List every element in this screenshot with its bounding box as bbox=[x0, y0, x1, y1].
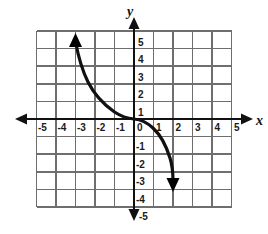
y-tick-label: -1 bbox=[136, 141, 145, 152]
cubic-curve bbox=[69, 33, 180, 192]
x-tick-label: -4 bbox=[58, 122, 67, 133]
x-tick-label: 5 bbox=[234, 122, 240, 133]
x-axis-right-arrow bbox=[241, 114, 253, 125]
y-tick-label: -5 bbox=[139, 211, 148, 222]
y-tick-label: -2 bbox=[136, 159, 145, 170]
x-tick-label-origin: 0 bbox=[137, 122, 143, 133]
x-tick-label: -1 bbox=[116, 122, 125, 133]
x-tick-label: -5 bbox=[38, 122, 47, 133]
y-tick-label: 3 bbox=[138, 72, 144, 83]
y-tick-label: 2 bbox=[138, 89, 144, 100]
x-tick-label: 2 bbox=[176, 122, 182, 133]
y-tick-label: 1 bbox=[138, 107, 144, 118]
y-tick-label: -4 bbox=[136, 194, 145, 205]
y-tick-label: 4 bbox=[138, 54, 144, 65]
x-axis-left-arrow bbox=[15, 114, 27, 125]
x-tick-label: 3 bbox=[195, 122, 201, 133]
y-tick-label: 5 bbox=[138, 37, 144, 48]
y-tick-label: -3 bbox=[136, 176, 145, 187]
x-axis-label: x bbox=[255, 113, 263, 128]
x-tick-label: 4 bbox=[215, 122, 221, 133]
cubic-curve-path bbox=[76, 42, 174, 182]
x-tick-label: -2 bbox=[97, 122, 106, 133]
x-tick-labels: -5 -4 -3 -2 -1 0 1 2 3 4 5 bbox=[38, 122, 240, 133]
y-axis-down-arrow bbox=[129, 209, 140, 221]
graph-canvas: -5 -4 -3 -2 -1 0 1 2 3 4 5 5 4 3 2 1 -1 … bbox=[0, 0, 268, 234]
x-tick-label: -3 bbox=[77, 122, 86, 133]
coordinate-graph-figure: -5 -4 -3 -2 -1 0 1 2 3 4 5 5 4 3 2 1 -1 … bbox=[0, 0, 268, 234]
cubic-curve-upper-arrow bbox=[69, 33, 82, 47]
x-tick-label: 1 bbox=[156, 122, 162, 133]
y-axis-label: y bbox=[125, 4, 134, 19]
